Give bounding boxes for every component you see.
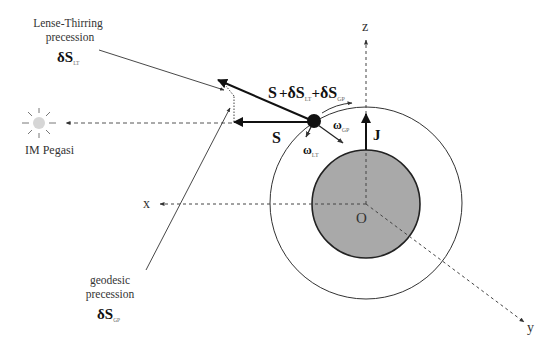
lense-thirring-precession-component: [226, 86, 234, 96]
star-icon: [22, 108, 56, 138]
lense-thirring-symbol: δSLT: [57, 49, 80, 66]
guide-star-label: IM Pegasi: [25, 143, 75, 157]
lense-thirring-label-line1: Lense-Thirring: [33, 17, 103, 30]
j-vector-label: J: [373, 127, 381, 143]
lense-thirring-label-line2: precession: [46, 31, 95, 44]
y-axis-label: y: [527, 320, 534, 335]
origin-label: O: [356, 210, 367, 226]
omega-lt-label: ωLT: [303, 143, 319, 158]
precessed-spin-label: S+δSLT+δSGP: [268, 84, 346, 102]
x-axis-label: x: [143, 196, 150, 211]
z-axis-label: z: [362, 19, 368, 34]
geodesic-symbol: δSGP: [97, 306, 120, 323]
diagram-canvas: z x y O J IM Pegasi S ωGP ωLT S+δSLT+δS: [0, 0, 551, 347]
lense-thirring-leader: [99, 50, 224, 90]
omega-lt-arrow: [306, 127, 311, 137]
geodesic-label-line2: precession: [86, 288, 135, 301]
omega-gp-label: ωGP: [333, 118, 350, 133]
geodesic-label-line1: geodesic: [90, 274, 130, 287]
spin-vector-label: S: [272, 129, 281, 146]
geodesic-leader: [146, 108, 230, 270]
